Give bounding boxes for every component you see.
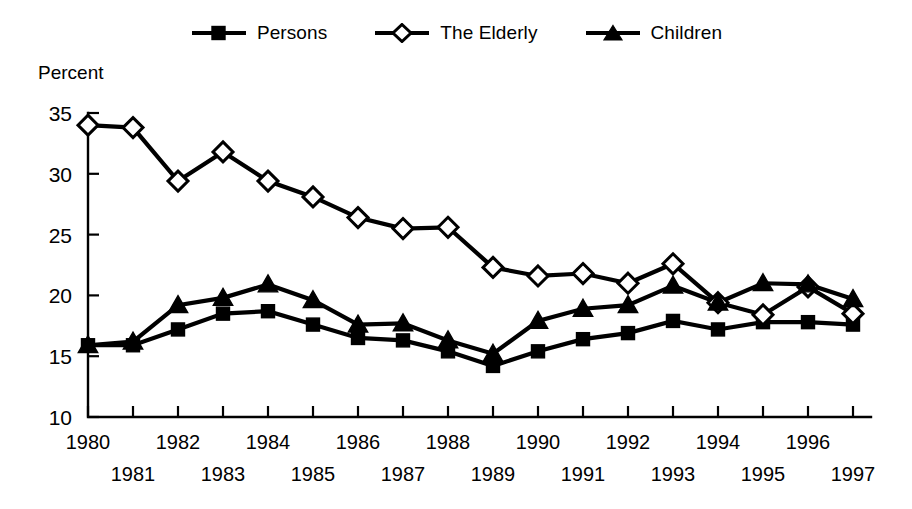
data-point bbox=[258, 275, 277, 292]
data-point bbox=[573, 264, 593, 284]
series-children bbox=[88, 283, 853, 354]
x-tick-label: 1982 bbox=[156, 431, 201, 453]
y-tick-label: 10 bbox=[49, 406, 72, 429]
axis-lines bbox=[88, 113, 871, 417]
y-tick-label: 30 bbox=[49, 163, 72, 186]
x-tick-label: 1995 bbox=[741, 463, 786, 485]
x-tick-label: 1990 bbox=[516, 431, 561, 453]
data-point bbox=[217, 307, 230, 320]
y-axis-tick-labels: 101520253035 bbox=[49, 102, 72, 429]
data-point bbox=[397, 334, 410, 347]
data-point bbox=[622, 327, 635, 340]
data-point bbox=[78, 115, 98, 135]
x-tick-label: 1984 bbox=[246, 431, 291, 453]
poverty-rate-line-chart: Persons The Elderly Children Percent 198… bbox=[0, 0, 912, 509]
data-point bbox=[303, 187, 323, 207]
y-tick-label: 25 bbox=[49, 224, 72, 247]
x-tick-label: 1988 bbox=[426, 431, 471, 453]
x-axis-tick-labels: 1980198119821983198419851986198719881989… bbox=[66, 431, 876, 485]
data-point bbox=[532, 345, 545, 358]
y-tick-label: 20 bbox=[49, 284, 72, 307]
data-point bbox=[667, 314, 680, 327]
x-tick-label: 1983 bbox=[201, 463, 246, 485]
series-layer bbox=[78, 115, 863, 372]
x-axis-ticks bbox=[88, 406, 853, 417]
data-point bbox=[393, 219, 413, 239]
markers-persons bbox=[82, 305, 860, 373]
data-point bbox=[352, 331, 365, 344]
y-tick-label: 35 bbox=[49, 102, 72, 125]
data-point bbox=[528, 266, 548, 286]
data-point bbox=[802, 316, 815, 329]
y-axis-ticks bbox=[88, 113, 99, 417]
data-point bbox=[172, 323, 185, 336]
data-point bbox=[262, 305, 275, 318]
y-tick-label: 15 bbox=[49, 345, 72, 368]
data-point bbox=[712, 323, 725, 336]
x-tick-label: 1987 bbox=[381, 463, 426, 485]
x-tick-label: 1989 bbox=[471, 463, 516, 485]
data-point bbox=[618, 273, 638, 293]
markers-the-elderly bbox=[78, 115, 863, 325]
series-the-elderly bbox=[88, 125, 853, 315]
series-persons bbox=[88, 311, 853, 366]
data-point bbox=[577, 333, 590, 346]
x-tick-label: 1992 bbox=[606, 431, 651, 453]
x-tick-label: 1981 bbox=[111, 463, 156, 485]
x-tick-label: 1996 bbox=[786, 431, 831, 453]
x-tick-label: 1997 bbox=[831, 463, 876, 485]
plot-area: 1980198119821983198419851986198719881989… bbox=[0, 0, 912, 509]
x-tick-label: 1993 bbox=[651, 463, 696, 485]
x-tick-label: 1985 bbox=[291, 463, 336, 485]
data-point bbox=[663, 276, 682, 293]
x-tick-label: 1986 bbox=[336, 431, 381, 453]
data-point bbox=[348, 208, 368, 228]
data-point bbox=[307, 318, 320, 331]
x-tick-label: 1980 bbox=[66, 431, 111, 453]
x-tick-label: 1994 bbox=[696, 431, 741, 453]
x-tick-label: 1991 bbox=[561, 463, 606, 485]
